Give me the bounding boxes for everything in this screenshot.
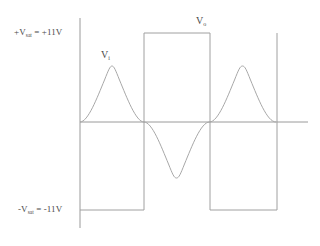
waveform-figure: +Vsat = +11V -Vsat = -11V Vi Vo <box>0 0 320 246</box>
vsat-neg-value: = -11V <box>34 204 62 214</box>
vo-subscript: o <box>203 21 206 27</box>
vsat-pos-prefix: +V <box>14 27 26 37</box>
vi-subscript: i <box>108 55 110 61</box>
vsat-pos-value: = +11V <box>32 27 63 37</box>
label-input-signal: Vi <box>101 50 110 60</box>
vsat-neg-prefix: -V <box>18 204 28 214</box>
label-positive-saturation: +Vsat = +11V <box>14 28 62 37</box>
vsat-pos-subscript: sat <box>26 32 32 38</box>
label-output-signal: Vo <box>196 16 206 26</box>
label-negative-saturation: -Vsat = -11V <box>18 205 62 214</box>
vsat-neg-subscript: sat <box>28 209 34 215</box>
